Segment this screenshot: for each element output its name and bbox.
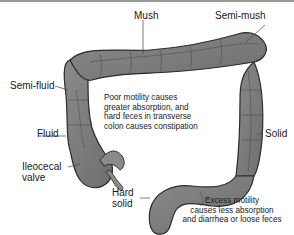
label-hard-solid-line1: Hard — [112, 187, 134, 198]
note-poor-motility: Poor motility causes greater absorption,… — [104, 93, 198, 131]
label-semi-mush: Semi-mush — [215, 10, 266, 21]
note-line: Poor motility causes — [104, 93, 198, 103]
note-excess-motility: Excess motility causes less absorption a… — [168, 196, 294, 225]
label-ileocecal-valve-line1: Ileocecal — [22, 161, 61, 172]
note-line: greater absorption, and — [104, 103, 198, 113]
label-mush: Mush — [134, 10, 158, 21]
label-semi-fluid: Semi-fluid — [10, 80, 54, 91]
note-line: colon causes constipation — [104, 122, 198, 132]
label-hard-solid-line2: solid — [112, 198, 133, 209]
note-line: causes less absorption — [168, 206, 294, 216]
note-line: hard feces in transverse — [104, 112, 198, 122]
note-line: Excess motility — [168, 196, 294, 206]
transverse-colon — [70, 33, 266, 81]
label-solid: Solid — [265, 128, 287, 139]
label-fluid: Fluid — [37, 128, 59, 139]
label-ileocecal-valve-line2: valve — [22, 172, 45, 183]
note-line: and diarrhea or loose feces — [168, 215, 294, 225]
